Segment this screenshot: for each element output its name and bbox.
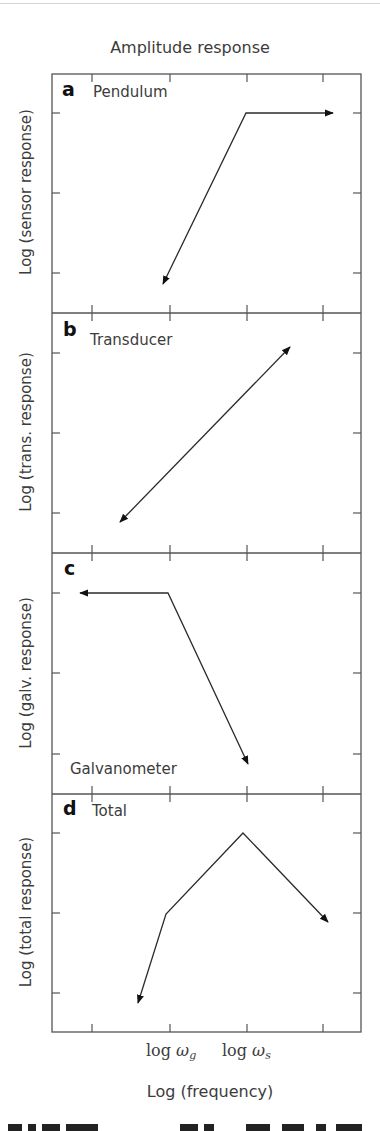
galvanometer-curve	[80, 593, 248, 764]
cropped-caption-fragment	[0, 1124, 380, 1131]
xtick-label-omega-g: log ωg	[146, 1041, 196, 1062]
pendulum-curve	[163, 113, 333, 284]
transducer-curve	[120, 347, 290, 522]
panel-letter-a: a	[62, 78, 75, 100]
panel-name-galvanometer: Galvanometer	[70, 760, 177, 778]
panel-name-pendulum: Pendulum	[93, 83, 168, 101]
panel-name-transducer: Transducer	[90, 331, 172, 349]
panel-frames	[52, 74, 361, 1032]
ylabel-panel-d: Log (total response)	[17, 792, 35, 1032]
panel-letter-b: b	[63, 318, 77, 340]
ylabel-panel-b: Log (trans. response)	[17, 312, 35, 552]
panel-letter-c: c	[64, 557, 75, 579]
x-axis-label: Log (frequency)	[0, 1082, 380, 1101]
panel-letter-d: d	[63, 797, 77, 819]
panel-name-total: Total	[92, 802, 127, 820]
xtick-label-omega-s: log ωs	[222, 1041, 271, 1062]
ylabel-panel-a: Log (sensor response)	[17, 72, 35, 312]
total-curve	[138, 833, 328, 1003]
figure-canvas	[0, 0, 380, 1131]
ylabel-panel-c: Log (galv. response)	[17, 553, 35, 793]
